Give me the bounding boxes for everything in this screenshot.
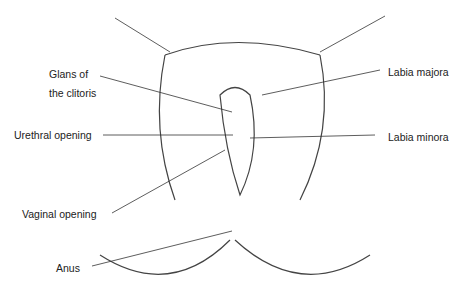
leader-top-left [115, 18, 170, 52]
label-urethral-opening: Urethral opening [14, 126, 92, 145]
label-anus: Anus [56, 259, 80, 278]
leader-anus [92, 231, 232, 266]
leader-glans [100, 76, 232, 112]
label-labia-minora: Labia minora [388, 128, 449, 147]
leader-lines [92, 16, 385, 266]
label-labia-majora: Labia majora [388, 63, 449, 82]
leader-labia-minora [250, 135, 375, 138]
leader-top-right [320, 16, 385, 52]
label-glans-line2: the clitoris [49, 84, 96, 103]
outline-drawing [100, 43, 370, 275]
anatomy-diagram: Glans of the clitoris Urethral opening V… [0, 0, 462, 304]
leader-labia-majora [262, 70, 380, 95]
label-glans-line1: Glans of [49, 65, 88, 84]
leader-vaginal [112, 150, 225, 213]
label-vaginal-opening: Vaginal opening [22, 205, 97, 224]
